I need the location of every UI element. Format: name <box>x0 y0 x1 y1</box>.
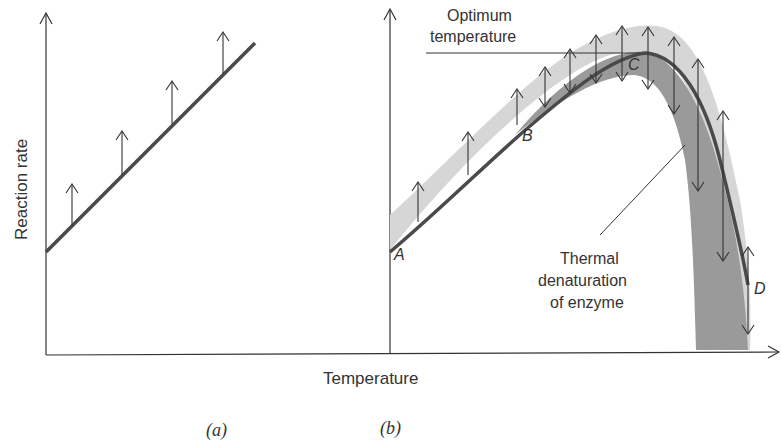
denaturation-leader-line <box>600 145 685 235</box>
denaturation-label-line2: denaturation <box>538 272 627 289</box>
point-b-label: B <box>522 127 533 144</box>
denaturation-label-line1: Thermal <box>560 250 619 267</box>
point-c-label: C <box>628 56 640 73</box>
optimum-label-line2: temperature <box>430 28 516 45</box>
panel-b-caption: (b) <box>380 418 401 439</box>
enzyme-rate-diagram: Reaction rate (a) <box>0 0 781 441</box>
denaturation-label-line3: of enzyme <box>550 294 624 311</box>
panel-a-caption: (a) <box>206 420 227 441</box>
panel-a-rate-line <box>46 43 255 252</box>
optimum-label-line1: Optimum <box>447 7 512 24</box>
y-axis-label: Reaction rate <box>12 139 31 240</box>
x-axis-label: Temperature <box>323 369 418 388</box>
point-d-label: D <box>754 280 766 297</box>
panel-b: Optimum temperature A B C D Thermal dena… <box>380 7 766 439</box>
panel-a-up-arrows <box>66 32 229 226</box>
x-axis <box>46 352 778 355</box>
point-a-label: A <box>393 246 405 263</box>
